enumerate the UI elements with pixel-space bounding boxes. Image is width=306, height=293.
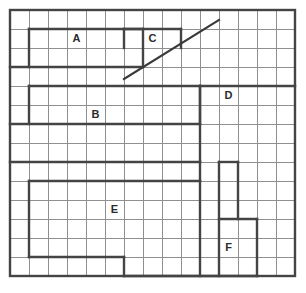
region-label-e: E [108,204,122,215]
region-label-d: D [222,90,236,101]
region-label-c: C [146,33,160,44]
region-label-a: A [70,33,84,44]
region-label-b: B [89,109,103,120]
thin-grid-lines [10,10,296,277]
grid-drawing [0,0,306,293]
grid-puzzle-canvas: ABCDEF [0,0,306,293]
region-label-f: F [222,242,236,253]
